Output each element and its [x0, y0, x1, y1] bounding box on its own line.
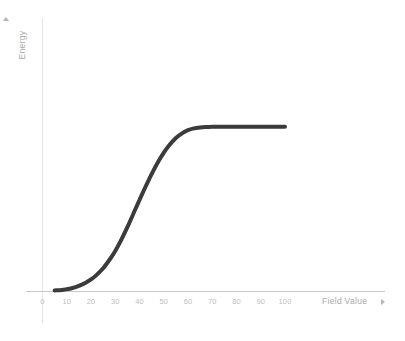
chart-container: Energy Field Value 010203040506070809010…	[0, 0, 405, 341]
data-line-energy	[55, 127, 285, 291]
plot-area	[0, 0, 405, 341]
